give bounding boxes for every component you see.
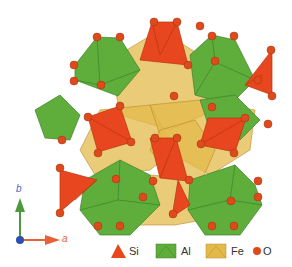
legend-label-si: Si: [129, 245, 139, 257]
si-legend-icon: [111, 244, 126, 258]
b-axis-label: b: [16, 183, 22, 194]
axis-indicator: [15, 198, 60, 245]
a-axis-label: a: [62, 233, 68, 244]
a-arrowhead-icon: [45, 235, 60, 245]
legend-label-al: Al: [181, 245, 191, 257]
o-legend-icon: [253, 247, 261, 255]
legend-label-o: O: [263, 245, 272, 257]
b-arrowhead-icon: [15, 198, 25, 212]
crystal-structure-diagram: [0, 0, 292, 267]
origin-dot-icon: [16, 236, 24, 244]
legend-label-fe: Fe: [231, 245, 244, 257]
